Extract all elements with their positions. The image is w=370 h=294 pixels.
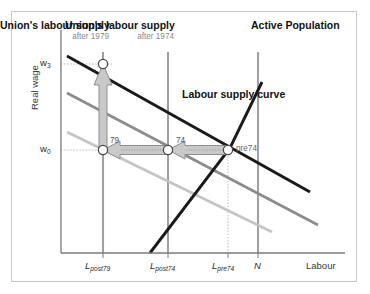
diagram-canvas — [0, 0, 370, 294]
x-tick-label-n: N — [254, 261, 261, 272]
equilibrium-point-w0-pre74 — [223, 145, 232, 154]
figure-root: Real wage w3 w0 Lpost79 Lpost74 Lpre74 N… — [0, 0, 370, 294]
annotation-active-population: Active Population — [251, 20, 315, 32]
arrow-label-79: 79 — [110, 136, 119, 145]
y-tick-label-w0: w0 — [40, 144, 51, 155]
y-tick-w0-sub: 0 — [47, 148, 51, 155]
y-tick-label-w3: w3 — [40, 58, 51, 69]
y-tick-w3-sub: 3 — [47, 62, 51, 69]
annotation-union-supply-74-title: Union's labour supply — [65, 20, 174, 32]
x-tick-label-lpost79: Lpost79 — [85, 261, 110, 272]
x-tick-lpost79-sub: post79 — [90, 265, 110, 272]
x-tick-label-lpre74: Lpre74 — [212, 261, 234, 272]
x-tick-lpost74-sub: post74 — [155, 265, 175, 272]
x-tick-label-lpost74: Lpost74 — [150, 261, 175, 272]
y-tick-w0-base: w — [40, 143, 47, 154]
y-axis-title: Real wage — [30, 65, 41, 110]
equilibrium-point-w0-post74 — [163, 145, 172, 154]
annotation-labour-supply-curve-text: Labour supply curve — [182, 88, 285, 100]
y-tick-w3-base: w — [40, 57, 47, 68]
annotation-union-supply-74: Union's labour supply after 1974 — [65, 20, 174, 41]
x-axis-title: Labour — [306, 261, 336, 272]
x-tick-n-base: N — [254, 260, 261, 271]
annotation-labour-supply-curve: Labour supply curve — [182, 88, 262, 100]
annotation-active-population-title: Active Population — [251, 19, 340, 31]
point-label-pre74: pre74 — [236, 144, 257, 153]
annotation-union-supply-74-subtitle: after 1974 — [65, 32, 174, 41]
equilibrium-point-w0-post79 — [98, 145, 107, 154]
equilibrium-point-w3-post79 — [98, 59, 107, 68]
x-tick-lpre74-sub: pre74 — [217, 265, 234, 272]
arrow-label-74: 74 — [176, 136, 185, 145]
